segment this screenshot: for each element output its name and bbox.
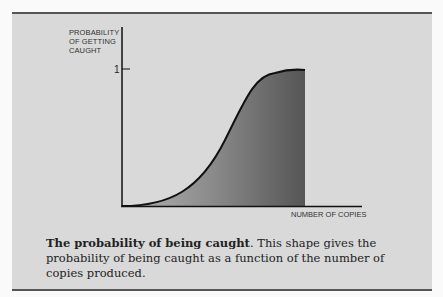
x-axis-label: NUMBER OF COPIES	[291, 210, 366, 219]
area-fill	[122, 70, 305, 206]
caption-title: The probability of being caught	[46, 236, 250, 250]
figure-caption: The probability of being caught. This sh…	[46, 236, 416, 281]
